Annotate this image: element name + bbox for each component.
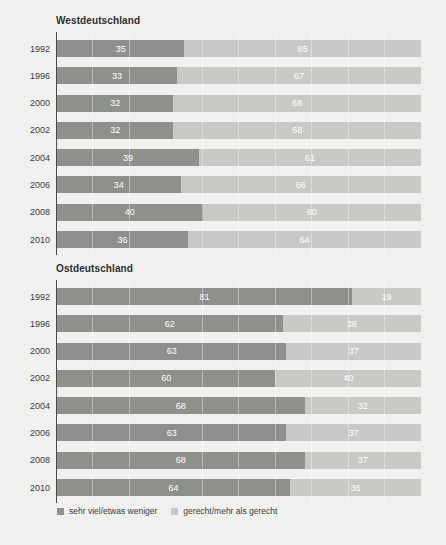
bar-segment-light: 40	[275, 370, 421, 387]
bar-segment-light: 65	[184, 40, 421, 57]
bar-segment-light: 36	[290, 479, 421, 496]
bar-row: 20046832	[57, 397, 421, 414]
bar-segment-light: 66	[181, 176, 421, 193]
bar-segment-dark: 63	[57, 343, 286, 360]
bar-track: 6832	[57, 397, 421, 414]
plot-area: 1992356519963367200032682002326820043961…	[56, 32, 421, 255]
chart-section-westdeutschland: Westdeutschland 199235651996336720003268…	[0, 14, 446, 255]
bar-value-dark: 63	[167, 428, 177, 438]
bar-rows: 1992356519963367200032682002326820043961…	[57, 40, 421, 248]
bar-segment-dark: 35	[57, 40, 184, 57]
bar-value-light: 37	[349, 346, 359, 356]
bar-value-light: 65	[298, 44, 308, 54]
bar-track: 6238	[57, 315, 421, 332]
bar-row: 20103664	[57, 231, 421, 248]
chart-title: Westdeutschland	[56, 14, 446, 32]
year-label: 2006	[30, 428, 50, 438]
bar-value-light: 66	[296, 180, 306, 190]
bar-segment-light: 37	[286, 343, 421, 360]
year-label: 1996	[30, 319, 50, 329]
legend: sehr viel/etwas weniger gerecht/mehr als…	[57, 506, 277, 516]
bar-value-dark: 33	[112, 71, 122, 81]
bar-row: 19963367	[57, 67, 421, 84]
bar-value-dark: 36	[118, 235, 128, 245]
bar-track: 6337	[57, 343, 421, 360]
legend-item-dark: sehr viel/etwas weniger	[57, 506, 157, 516]
bar-segment-dark: 64	[57, 479, 290, 496]
year-label: 2000	[30, 98, 50, 108]
bar-row: 20086837	[57, 452, 421, 469]
bar-segment-light: 60	[203, 204, 421, 221]
bar-value-light: 37	[358, 455, 368, 465]
bar-row: 20084060	[57, 204, 421, 221]
bar-row: 20003268	[57, 95, 421, 112]
bar-row: 20043961	[57, 149, 421, 166]
bar-value-light: 68	[292, 98, 302, 108]
bar-segment-dark: 60	[57, 370, 275, 387]
bar-value-light: 61	[305, 153, 315, 163]
year-label: 2000	[30, 346, 50, 356]
bar-segment-dark: 39	[57, 149, 199, 166]
year-label: 1992	[30, 44, 50, 54]
bar-value-dark: 35	[116, 44, 126, 54]
bar-value-dark: 40	[125, 207, 135, 217]
bar-value-dark: 39	[123, 153, 133, 163]
legend-label: gerecht/mehr als gerecht	[183, 506, 277, 516]
bar-value-dark: 63	[167, 346, 177, 356]
bar-value-light: 40	[343, 373, 353, 383]
bar-segment-dark: 81	[57, 288, 352, 305]
bar-segment-light: 19	[352, 288, 421, 305]
bar-row: 20063466	[57, 176, 421, 193]
bar-row: 20066337	[57, 424, 421, 441]
year-label: 2008	[30, 207, 50, 217]
legend-swatch-dark-icon	[57, 508, 64, 515]
bar-track: 3961	[57, 149, 421, 166]
bar-row: 19966238	[57, 315, 421, 332]
bar-value-light: 68	[292, 125, 302, 135]
bar-value-light: 37	[349, 428, 359, 438]
bar-segment-dark: 36	[57, 231, 188, 248]
year-label: 2004	[30, 153, 50, 163]
bar-segment-light: 37	[305, 452, 421, 469]
bar-value-dark: 81	[199, 292, 209, 302]
plot-area: 1992811919966238200063372002604020046832…	[56, 280, 421, 503]
bar-value-light: 67	[294, 71, 304, 81]
bar-row: 20006337	[57, 343, 421, 360]
bar-segment-dark: 68	[57, 452, 305, 469]
bar-track: 3565	[57, 40, 421, 57]
year-label: 2006	[30, 180, 50, 190]
bar-rows: 1992811919966238200063372002604020046832…	[57, 288, 421, 496]
bar-value-light: 64	[300, 235, 310, 245]
bar-track: 3466	[57, 176, 421, 193]
bar-value-dark: 34	[114, 180, 124, 190]
legend-label: sehr viel/etwas weniger	[69, 506, 157, 516]
bar-segment-dark: 63	[57, 424, 286, 441]
year-label: 2002	[30, 373, 50, 383]
bar-track: 6040	[57, 370, 421, 387]
bar-segment-light: 68	[173, 122, 421, 139]
bar-value-light: 36	[350, 483, 360, 493]
bar-track: 4060	[57, 204, 421, 221]
bar-segment-light: 61	[199, 149, 421, 166]
bar-value-dark: 64	[168, 483, 178, 493]
chart-section-ostdeutschland: Ostdeutschland 1992811919966238200063372…	[0, 262, 446, 503]
year-label: 2008	[30, 455, 50, 465]
bar-row: 20106436	[57, 479, 421, 496]
year-label: 2010	[30, 235, 50, 245]
bar-value-dark: 68	[176, 401, 186, 411]
bar-segment-dark: 34	[57, 176, 181, 193]
bar-segment-light: 67	[177, 67, 421, 84]
bar-segment-light: 38	[283, 315, 421, 332]
year-label: 1992	[30, 292, 50, 302]
bar-segment-light: 32	[305, 397, 421, 414]
bar-segment-light: 64	[188, 231, 421, 248]
legend-item-light: gerecht/mehr als gerecht	[171, 506, 277, 516]
bar-value-dark: 32	[110, 125, 120, 135]
bar-track: 8119	[57, 288, 421, 305]
bar-track: 3268	[57, 122, 421, 139]
bar-segment-dark: 32	[57, 122, 173, 139]
legend-swatch-light-icon	[171, 508, 178, 515]
bar-row: 20026040	[57, 370, 421, 387]
bar-value-light: 38	[347, 319, 357, 329]
year-label: 2002	[30, 125, 50, 135]
